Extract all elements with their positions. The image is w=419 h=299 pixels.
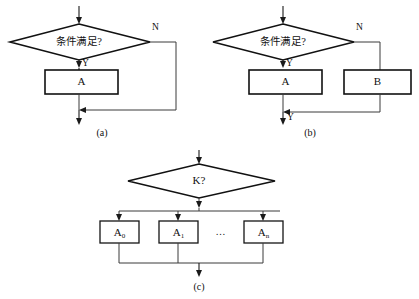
- diagram-a-false-label: N: [152, 22, 159, 32]
- flowchart-figure: 条件满足? Y A N: [0, 0, 419, 299]
- diagram-a-process-label: A: [78, 75, 86, 87]
- diagram-b-caption: (b): [304, 127, 316, 139]
- diagram-c-branch-base-0: A: [114, 225, 122, 237]
- diagram-c-drop-n: [260, 211, 266, 221]
- figure-canvas: 条件满足? Y A N: [0, 0, 419, 299]
- diagram-a-exit-arrow: [76, 110, 82, 125]
- diagram-b-decision-label: 条件满足?: [260, 35, 307, 47]
- diagram-b-merge-label: Y: [287, 112, 294, 122]
- diagram-b-process-right-label: B: [374, 75, 381, 87]
- diagram-a-entry-arrow: [76, 6, 82, 24]
- diagram-b-exit-arrow: [280, 112, 286, 125]
- diagram-b-entry-arrow: [280, 6, 286, 24]
- diagram-c-entry-arrow: [196, 150, 202, 164]
- diagram-c-branch-base-n: A: [258, 225, 266, 237]
- diagram-c-distribution-entry: [196, 198, 202, 211]
- diagram-b-process-left-label: A: [282, 75, 290, 87]
- diagram-a-caption: (a): [96, 127, 107, 139]
- diagram-c-drop-1: [175, 211, 181, 221]
- diagram-c-branch-base-1: A: [173, 225, 181, 237]
- diagram-c-branch-subscript-n: n: [266, 231, 270, 239]
- diagram-b-false-branch: [354, 42, 380, 70]
- diagram-c-exit-arrow: [196, 263, 202, 277]
- diagram-c-branch-subscript-1: 1: [181, 231, 185, 239]
- diagram-a: 条件满足? Y A N: [10, 6, 176, 139]
- diagram-a-true-label: Y: [82, 58, 89, 68]
- diagram-a-decision-label: 条件满足?: [56, 35, 103, 47]
- diagram-b-true-label: Y: [286, 58, 293, 68]
- diagram-b-merge: [283, 94, 380, 115]
- diagram-c-drop-0: [116, 211, 122, 221]
- diagram-b: 条件满足? Y A N B: [213, 6, 411, 139]
- diagram-c-ellipsis: …: [216, 226, 227, 237]
- diagram-c-decision-label: K?: [193, 174, 206, 186]
- diagram-c-caption: (c): [193, 281, 204, 293]
- diagram-b-false-label: N: [356, 22, 363, 32]
- diagram-c-branch-subscript-0: 0: [122, 231, 126, 239]
- diagram-c: K?: [100, 150, 283, 293]
